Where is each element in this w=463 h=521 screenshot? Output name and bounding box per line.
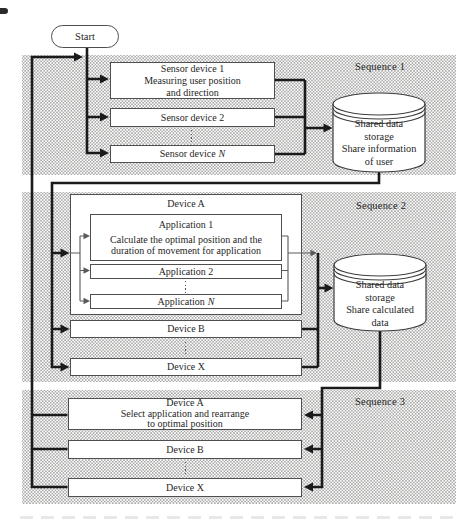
vertical-ellipsis [185, 281, 186, 293]
seq3-device-x-box: Device X [68, 478, 302, 497]
seq3-device-a-box: Device A Select application and rearrang… [68, 398, 302, 430]
vertical-ellipsis [185, 342, 186, 354]
seq3-device-b-box: Device B [68, 440, 302, 459]
device-x-box: Device X [70, 358, 302, 376]
application-1-description: Calculate the optimal position and the d… [110, 234, 262, 256]
application-1-box: Application 1 Calculate the optimal posi… [90, 214, 282, 261]
sequence-2-label: Sequence 2 [356, 200, 406, 211]
flowchart-figure: Device A [0, 0, 463, 521]
application-n-box: ApplicationN [90, 294, 282, 309]
sensor-device-n-box: Sensor deviceN [110, 145, 275, 163]
vertical-ellipsis [185, 462, 186, 474]
application-n-variable: N [208, 296, 215, 308]
sensor-device-n-label: Sensor device [160, 148, 216, 160]
vertical-ellipsis [191, 130, 192, 142]
sensor-device-1-box: Sensor device 1 Measuring user position … [110, 62, 275, 99]
shared-storage-1-label: Shared data storage Share information of… [333, 118, 425, 168]
sequence-1-label: Sequence 1 [355, 61, 405, 72]
application-1-title: Application 1 [159, 218, 214, 231]
start-node: Start [51, 25, 119, 48]
sensor-device-n-variable: N [219, 148, 226, 160]
sensor-device-2-box: Sensor device 2 [110, 108, 275, 127]
shared-storage-2-label: Shared data storage Share calculated dat… [334, 279, 426, 329]
application-n-label: Application [158, 296, 205, 308]
application-2-box: Application 2 [90, 264, 282, 279]
device-b-box: Device B [70, 320, 302, 338]
start-label: Start [75, 31, 95, 42]
sequence-3-label: Sequence 3 [355, 396, 405, 407]
